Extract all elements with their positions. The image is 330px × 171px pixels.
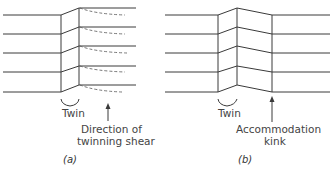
twin-label-b: Twin xyxy=(217,107,241,119)
arrow-label-b-line1: Accommodation xyxy=(236,123,321,135)
arrow-label-b-line2: kink xyxy=(264,135,287,147)
twin-label-a: Twin xyxy=(61,107,85,119)
twin-brace-a xyxy=(61,99,79,106)
caption-b: (b) xyxy=(238,154,252,165)
accommodation-kink-arrow-icon xyxy=(270,96,275,122)
arrow-label-a-line2: twinning shear xyxy=(77,135,156,147)
shear-direction-arrow-icon xyxy=(106,103,111,121)
caption-a: (a) xyxy=(63,154,77,165)
twinning-diagram: Twin Direction of twinning shear (a) xyxy=(0,0,330,171)
arrow-label-a-line1: Direction of xyxy=(81,123,142,135)
panel-b-lattice xyxy=(165,8,330,92)
panel-a-lattice xyxy=(3,8,136,92)
twin-brace-b xyxy=(218,99,237,106)
